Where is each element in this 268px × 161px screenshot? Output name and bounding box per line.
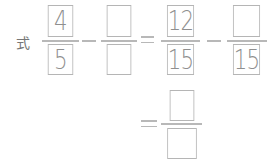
fraction-4-bar [227, 40, 267, 42]
minus-sign-1 [82, 40, 96, 42]
equals-sign-2 [141, 120, 157, 127]
minus-sign-2 [207, 40, 221, 42]
fraction-1-denominator[interactable]: 5 [48, 44, 73, 75]
fraction-4-denominator[interactable]: 15 [233, 44, 260, 75]
expression-label: 式 [16, 32, 30, 52]
fraction-3-numerator[interactable]: 12 [167, 5, 194, 37]
fraction-1-bar [42, 40, 79, 42]
result-denominator[interactable] [167, 128, 197, 159]
fraction-2-numerator[interactable] [107, 5, 132, 37]
result-numerator[interactable] [170, 90, 195, 121]
equals-sign-1 [141, 36, 154, 43]
fraction-2-bar [101, 40, 137, 42]
fraction-2-denominator[interactable] [107, 44, 132, 75]
result-bar [161, 123, 202, 125]
fraction-1-numerator[interactable]: 4 [48, 5, 73, 37]
fraction-3-bar [161, 40, 200, 42]
fraction-3-denominator[interactable]: 15 [167, 44, 194, 75]
fraction-4-numerator[interactable] [233, 5, 260, 37]
